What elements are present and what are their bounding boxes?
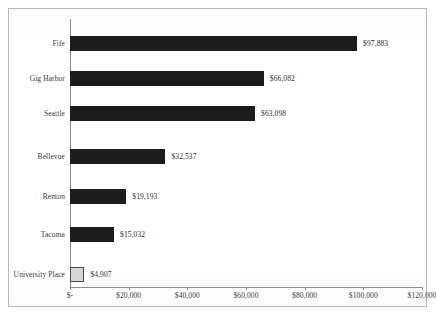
- category-label-seattle: Seattle: [9, 110, 65, 118]
- bar-bellevue: [70, 149, 165, 164]
- value-label-university-place: $4,907: [90, 271, 111, 279]
- bar-renton: [70, 189, 126, 204]
- category-label-gig-harbor: Gig Harbor: [9, 75, 65, 83]
- x-tick-label-6: $120,000: [408, 292, 436, 300]
- x-tick-label-1: $20,000: [116, 292, 141, 300]
- category-label-tacoma: Tacoma: [9, 231, 65, 239]
- x-tick-label-0: $-: [67, 292, 73, 300]
- chart-frame: FifeGig HarborSeattleBellevueRentonTacom…: [8, 8, 427, 307]
- value-label-gig-harbor: $66,082: [270, 75, 295, 83]
- x-tick-mark-6: [422, 287, 423, 290]
- plot-area: FifeGig HarborSeattleBellevueRentonTacom…: [9, 9, 426, 306]
- x-tick-label-4: $80,000: [292, 292, 317, 300]
- x-tick-label-2: $40,000: [175, 292, 200, 300]
- category-label-bellevue: Bellevue: [9, 153, 65, 161]
- bar-tacoma: [70, 227, 114, 242]
- x-tick-mark-3: [246, 287, 247, 290]
- x-tick-mark-4: [305, 287, 306, 290]
- bar-gig-harbor: [70, 71, 264, 86]
- bar-university-place: [70, 267, 84, 282]
- x-tick-mark-1: [129, 287, 130, 290]
- x-tick-label-5: $100,000: [349, 292, 378, 300]
- x-tick-mark-2: [187, 287, 188, 290]
- category-label-fife: Fife: [9, 40, 65, 48]
- value-label-renton: $19,193: [132, 193, 157, 201]
- x-tick-label-3: $60,000: [233, 292, 258, 300]
- value-label-tacoma: $15,032: [120, 231, 145, 239]
- bar-fife: [70, 36, 357, 51]
- x-tick-mark-0: [70, 287, 71, 290]
- x-tick-mark-5: [363, 287, 364, 290]
- value-label-bellevue: $32,537: [171, 153, 196, 161]
- value-label-seattle: $63,098: [261, 110, 286, 118]
- bar-seattle: [70, 106, 255, 121]
- category-label-renton: Renton: [9, 193, 65, 201]
- category-label-university-place: University Place: [9, 271, 65, 279]
- value-label-fife: $97,883: [363, 40, 388, 48]
